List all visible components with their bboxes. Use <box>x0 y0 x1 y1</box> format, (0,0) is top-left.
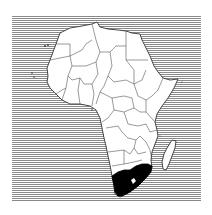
madagascar <box>162 140 176 170</box>
africa-locator-map <box>0 0 212 215</box>
africa-mainland <box>47 22 178 197</box>
